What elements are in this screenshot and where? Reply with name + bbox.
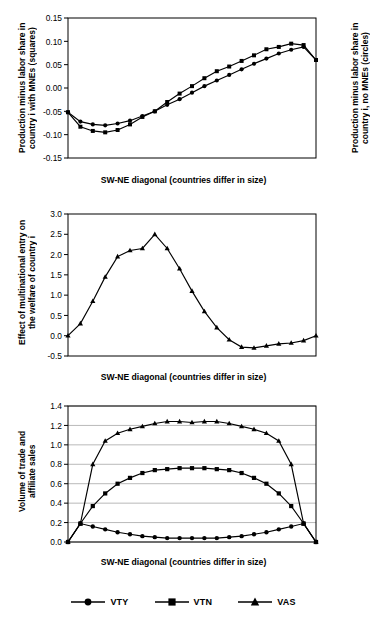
data-point-marker xyxy=(276,438,281,443)
panel2-y-axis-title-left: Effect of multinational entry on the wel… xyxy=(6,212,30,352)
data-point-marker xyxy=(252,476,256,480)
panel3-y-left-line1: Volume of trade and xyxy=(17,430,27,511)
panel3-plot: 0.00.20.40.60.81.01.21.4 xyxy=(30,392,330,557)
data-point-marker xyxy=(116,121,120,125)
data-point-marker xyxy=(91,504,95,508)
data-point-marker xyxy=(90,298,95,303)
data-point-marker xyxy=(289,524,293,528)
data-point-marker xyxy=(66,110,70,114)
legend-label-vtn: VTN xyxy=(194,597,213,607)
plot-frame xyxy=(68,214,316,356)
data-point-marker xyxy=(128,476,132,480)
y-axis-tick-label: 1.5 xyxy=(50,270,62,280)
y-axis-tick-label: -0.05 xyxy=(43,107,62,117)
panel3-y-axis-title-left: Volume of trade and affiliate sales xyxy=(6,406,30,536)
panel1-y-right-line2: country i, no MNEs (circles) xyxy=(360,32,370,144)
data-point-marker xyxy=(91,524,95,528)
data-point-marker xyxy=(313,333,318,338)
panel2-y-left-line1: Effect of multinational entry on xyxy=(17,219,27,344)
legend-marker-circle-icon xyxy=(71,596,105,608)
data-point-marker xyxy=(189,288,194,293)
y-axis-tick-label: 0.0 xyxy=(50,331,62,341)
data-point-marker xyxy=(264,482,268,486)
data-point-marker xyxy=(277,527,281,531)
y-axis-tick-label: 0.05 xyxy=(46,60,63,70)
data-point-marker xyxy=(165,467,169,471)
data-point-marker xyxy=(215,69,219,73)
y-axis-tick-label: 0.5 xyxy=(50,311,62,321)
chart-panel-1: Production minus labor share in country … xyxy=(0,8,367,198)
data-point-marker xyxy=(152,232,157,237)
data-point-marker xyxy=(190,84,194,88)
data-point-marker xyxy=(252,532,256,536)
data-point-marker xyxy=(128,532,132,536)
data-point-marker xyxy=(252,53,256,57)
plot-frame xyxy=(68,406,316,542)
data-point-marker xyxy=(116,482,120,486)
chart-legend: VTY VTN VAS xyxy=(0,596,367,608)
data-point-marker xyxy=(103,491,107,495)
data-point-marker xyxy=(190,466,194,470)
y-axis-tick-label: -0.10 xyxy=(43,130,62,140)
data-point-marker xyxy=(314,58,318,62)
data-point-marker xyxy=(227,73,231,77)
panel1-y-axis-title-right: Production minus labor share in country … xyxy=(339,12,363,164)
data-point-marker xyxy=(264,530,268,534)
data-point-marker xyxy=(128,119,132,123)
data-point-marker xyxy=(277,51,281,55)
data-point-marker xyxy=(302,45,306,49)
chart-panel-2: Effect of multinational entry on the wel… xyxy=(0,200,367,390)
data-point-marker xyxy=(78,120,82,124)
data-point-marker xyxy=(264,57,268,61)
y-axis-tick-label: 1.0 xyxy=(50,440,62,450)
data-point-marker xyxy=(289,48,293,52)
data-point-marker xyxy=(103,438,108,443)
panel1-x-axis-label: SW-NE diagonal (countries differ in size… xyxy=(0,175,367,185)
data-point-marker xyxy=(202,466,206,470)
chart-panel-3: Volume of trade and affiliate sales 0.00… xyxy=(0,392,367,592)
legend-label-vas: VAS xyxy=(277,597,295,607)
data-point-marker xyxy=(153,535,157,539)
data-point-marker xyxy=(215,536,219,540)
data-point-marker xyxy=(202,76,206,80)
y-axis-tick-label: -0.5 xyxy=(48,351,63,361)
data-point-marker xyxy=(215,78,219,82)
data-point-marker xyxy=(178,466,182,470)
y-axis-tick-label: 1.4 xyxy=(50,401,62,411)
data-point-marker xyxy=(91,129,95,133)
y-axis-tick-label: 0.00 xyxy=(46,83,63,93)
data-point-marker xyxy=(240,59,244,63)
data-point-marker xyxy=(78,125,82,129)
y-axis-tick-label: 0.2 xyxy=(50,518,62,528)
legend-label-vty: VTY xyxy=(110,597,128,607)
y-axis-tick-label: 2.5 xyxy=(50,229,62,239)
data-point-marker xyxy=(227,65,231,69)
data-point-marker xyxy=(289,504,293,508)
panel1-y-axis-title-left: Production minus labor share in country … xyxy=(6,12,30,164)
data-point-marker xyxy=(140,471,144,475)
data-point-marker xyxy=(215,467,219,471)
legend-item-vas: VAS xyxy=(238,596,295,608)
legend-marker-square-icon xyxy=(155,596,189,608)
data-point-marker xyxy=(78,321,83,326)
data-point-marker xyxy=(140,114,144,118)
y-axis-tick-label: 0.0 xyxy=(50,537,62,547)
data-point-marker xyxy=(227,468,231,472)
y-axis-tick-label: 2.0 xyxy=(50,250,62,260)
data-point-marker xyxy=(90,462,95,467)
legend-item-vtn: VTN xyxy=(155,596,213,608)
y-axis-tick-label: 0.6 xyxy=(50,479,62,489)
data-point-marker xyxy=(240,67,244,71)
data-point-marker xyxy=(178,92,182,96)
data-point-marker xyxy=(178,97,182,101)
data-point-marker xyxy=(165,103,169,107)
data-point-marker xyxy=(128,122,132,126)
data-point-marker xyxy=(227,535,231,539)
data-point-marker xyxy=(202,536,206,540)
data-point-marker xyxy=(116,128,120,132)
panel1-plot: -0.15-0.10-0.050.000.050.100.15 xyxy=(30,8,330,178)
data-point-marker xyxy=(165,536,169,540)
data-point-marker xyxy=(153,109,157,113)
data-point-marker xyxy=(115,530,119,534)
